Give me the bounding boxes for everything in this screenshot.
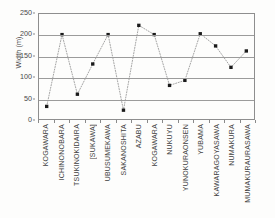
x-axis-tick-mark bbox=[69, 120, 70, 123]
x-axis-label-slot: YUNOKURAONSEN bbox=[178, 124, 192, 218]
x-axis-tick-mark bbox=[38, 120, 39, 123]
y-axis-tick-label: 200 bbox=[20, 31, 32, 38]
width-scatter-chart: Width (m) 050100150200250 KOGAWARAICHINO… bbox=[0, 0, 275, 218]
data-point-marker[interactable] bbox=[91, 62, 94, 65]
y-axis-tick-labels: 050100150200250 bbox=[12, 13, 35, 120]
x-axis-label-slot: ICHINONOBARA bbox=[54, 124, 68, 218]
series-connector-line bbox=[47, 25, 247, 110]
gridline bbox=[39, 100, 254, 101]
x-axis-category-label: TSUKINOKIDAIRA bbox=[73, 124, 80, 186]
x-axis-tick-mark bbox=[147, 120, 148, 123]
x-axis-label-slot: KAWARAGOYASAWA bbox=[209, 124, 223, 218]
x-axis-tick-mark bbox=[131, 120, 132, 123]
x-axis-category-label: YUBAMA bbox=[197, 124, 204, 155]
data-point-marker[interactable] bbox=[122, 109, 125, 112]
y-axis-tick-label: 0 bbox=[28, 116, 32, 123]
y-axis-tick-mark bbox=[33, 98, 36, 99]
y-axis-tick-mark bbox=[33, 34, 36, 35]
y-axis-tick-mark bbox=[33, 120, 36, 121]
data-series-svg bbox=[39, 14, 254, 119]
x-axis-tick-mark bbox=[193, 120, 194, 123]
x-axis-category-label: KAWARAGOYASAWA bbox=[213, 124, 220, 196]
x-axis-tick-mark bbox=[255, 120, 256, 123]
y-axis-tick-label: 100 bbox=[20, 74, 32, 81]
gridline bbox=[39, 57, 254, 58]
gridline bbox=[39, 35, 254, 36]
data-point-marker[interactable] bbox=[229, 66, 232, 69]
x-axis-tick-mark bbox=[85, 120, 86, 123]
y-axis-tick-label: 250 bbox=[20, 9, 32, 16]
x-axis-category-label: YUNOKURAONSEN bbox=[182, 124, 189, 191]
data-point-marker[interactable] bbox=[168, 84, 171, 87]
plot-area bbox=[38, 13, 255, 120]
x-axis-label-slot: UBUSUMEKAWA bbox=[101, 124, 115, 218]
x-axis-label-slot: TSUKINOKIDAIRA bbox=[70, 124, 84, 218]
data-point-marker[interactable] bbox=[245, 49, 248, 52]
x-axis-label-slot: YUBAMA bbox=[194, 124, 208, 218]
x-axis-label-slot: MUMAKURAURASAWA bbox=[240, 124, 254, 218]
x-axis-tick-mark bbox=[100, 120, 101, 123]
y-axis-tick-mark bbox=[33, 13, 36, 14]
x-axis-category-labels: KOGAWARAICHINONOBARATSUKINOKIDAIRA[SUKAW… bbox=[38, 124, 255, 218]
x-axis-tick-mark bbox=[209, 120, 210, 123]
x-axis-category-label: KOGAWARA bbox=[151, 124, 158, 166]
x-axis-label-slot: NUKUYU bbox=[163, 124, 177, 218]
x-axis-label-slot: SAKANOSHITA bbox=[116, 124, 130, 218]
x-axis-category-label: MUMAKURAURASAWA bbox=[244, 124, 251, 203]
x-axis-category-label: ICHINONOBARA bbox=[58, 124, 65, 180]
data-point-marker[interactable] bbox=[183, 79, 186, 82]
x-axis-label-slot: [SUKAWA] bbox=[85, 124, 99, 218]
data-point-marker[interactable] bbox=[137, 24, 140, 27]
x-axis-category-label: NUMAKURA bbox=[228, 124, 235, 166]
x-axis-category-label: NUKUYU bbox=[166, 124, 173, 155]
x-axis-label-slot: AZABU bbox=[132, 124, 146, 218]
y-axis-tick-label: 150 bbox=[20, 52, 32, 59]
x-axis-category-label: [SUKAWA] bbox=[89, 124, 96, 159]
x-axis-label-slot: NUMAKURA bbox=[225, 124, 239, 218]
x-axis-label-slot: KOGAWARA bbox=[147, 124, 161, 218]
y-axis-tick-mark bbox=[33, 77, 36, 78]
data-point-marker[interactable] bbox=[214, 44, 217, 47]
x-axis-category-label: SAKANOSHITA bbox=[120, 124, 127, 175]
x-axis-tick-mark bbox=[240, 120, 241, 123]
y-axis-tick-mark bbox=[33, 55, 36, 56]
x-axis-category-label: UBUSUMEKAWA bbox=[104, 124, 111, 181]
data-point-marker[interactable] bbox=[76, 93, 79, 96]
y-axis-tick-label: 50 bbox=[24, 95, 32, 102]
x-axis-tick-mark bbox=[178, 120, 179, 123]
data-point-marker[interactable] bbox=[45, 105, 48, 108]
x-axis-category-label: AZABU bbox=[135, 124, 142, 148]
x-axis-category-label: KOGAWARA bbox=[42, 124, 49, 166]
x-axis-tick-mark bbox=[54, 120, 55, 123]
x-axis-tick-mark bbox=[162, 120, 163, 123]
x-axis-tick-mark bbox=[116, 120, 117, 123]
x-axis-tick-marks bbox=[38, 120, 255, 123]
x-axis-label-slot: KOGAWARA bbox=[39, 124, 53, 218]
x-axis-tick-mark bbox=[224, 120, 225, 123]
gridline bbox=[39, 78, 254, 79]
